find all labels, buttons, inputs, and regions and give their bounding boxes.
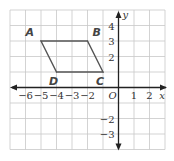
vertex-point-a <box>40 40 41 41</box>
x-tick-label: −4 <box>49 90 64 101</box>
tick-labels: −6−5−4−3−212432−2−3 <box>18 21 153 141</box>
y-axis-arrow-up-icon <box>116 11 122 18</box>
x-axis-arrow-left-icon <box>10 85 17 91</box>
parallelogram: ABCD <box>24 26 104 88</box>
origin-label: O <box>108 90 116 101</box>
vertex-label-d: D <box>49 75 58 88</box>
x-tick-label: −6 <box>18 90 33 101</box>
y-axis-label: y <box>122 9 129 20</box>
y-tick-label: −3 <box>100 129 115 140</box>
coordinate-plane: −6−5−4−3−212432−2−3 ABCD x y O <box>0 0 174 161</box>
x-axis-label: x <box>159 90 165 101</box>
y-tick-label: 3 <box>108 36 114 47</box>
x-tick-label: 1 <box>131 90 137 101</box>
vertex-label-b: B <box>93 26 101 39</box>
vertex-point-c <box>102 71 103 72</box>
y-tick-label: −2 <box>100 114 115 125</box>
x-tick-label: −3 <box>65 90 80 101</box>
vertex-label-a: A <box>24 26 34 39</box>
vertex-label-c: C <box>96 75 104 88</box>
x-tick-label: −5 <box>34 90 49 101</box>
y-tick-label: 2 <box>108 52 114 63</box>
x-tick-label: 2 <box>146 90 152 101</box>
vertex-point-d <box>56 71 57 72</box>
x-tick-label: −2 <box>80 90 95 101</box>
vertex-point-b <box>87 40 88 41</box>
y-tick-label: 4 <box>108 21 114 32</box>
